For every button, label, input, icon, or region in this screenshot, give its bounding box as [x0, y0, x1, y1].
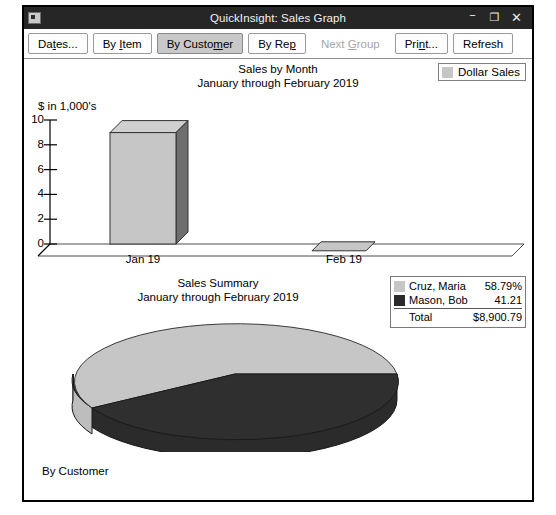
by-item-button-label: By Item	[103, 38, 142, 50]
dollar-sales-legend-label: Dollar Sales	[458, 66, 520, 78]
legend-name-cruz: Cruz, Maria	[409, 280, 481, 292]
pie-chart-footer-label: By Customer	[42, 465, 108, 477]
mason-bob-swatch-icon	[394, 295, 405, 306]
toolbar: Dates... By Item By Customer By Rep Next…	[24, 29, 532, 59]
refresh-button-label: Refresh	[463, 38, 503, 50]
bar-ytick-8: 8	[24, 138, 44, 150]
cruz-maria-swatch-icon	[394, 281, 405, 292]
legend-total-label: Total	[409, 311, 469, 323]
bar-ytick-4: 4	[24, 187, 44, 199]
next-group-button-label: Next Group	[321, 38, 380, 50]
legend-row: Cruz, Maria 58.79%	[394, 279, 522, 293]
pie-chart-graphic	[70, 312, 400, 452]
by-customer-button[interactable]: By Customer	[157, 33, 244, 54]
window-title: QuickInsight: Sales Graph	[24, 12, 532, 24]
print-button[interactable]: Print...	[395, 33, 448, 54]
dollar-sales-swatch-icon	[442, 67, 453, 78]
legend-total-value: $8,900.79	[473, 311, 522, 323]
by-rep-button-label: By Rep	[258, 38, 296, 50]
minimize-icon[interactable]: –	[466, 10, 479, 20]
by-item-button[interactable]: By Item	[93, 33, 152, 54]
legend-value-mason: 41.21	[494, 294, 522, 306]
bar-chart-svg	[24, 111, 532, 271]
legend-row-total: Total $8,900.79	[394, 308, 522, 324]
pie-chart-svg	[70, 312, 400, 452]
dates-button[interactable]: Dates...	[28, 33, 88, 54]
bar-ytick-10: 10	[24, 113, 44, 125]
app-window-icon	[28, 12, 41, 24]
bar-ytick-0: 0	[24, 237, 44, 249]
bar-xtick-feb: Feb 19	[309, 253, 379, 265]
by-customer-button-label: By Customer	[167, 38, 234, 50]
legend-value-cruz: 58.79%	[485, 280, 522, 292]
pie-chart-panel: Sales Summary January through February 2…	[24, 274, 532, 500]
print-button-label: Print...	[405, 38, 438, 50]
close-icon[interactable]: ✕	[510, 13, 523, 23]
application-window: QuickInsight: Sales Graph – ❐ ✕ Dates...…	[22, 5, 534, 502]
bar-chart-plot: 10 8 6 4 2 0 Jan 19 Feb 19	[24, 111, 532, 271]
bar-ytick-2: 2	[24, 212, 44, 224]
legend-row: Mason, Bob 41.21	[394, 293, 522, 307]
legend-name-mason: Mason, Bob	[409, 294, 490, 306]
refresh-button[interactable]: Refresh	[453, 33, 513, 54]
sales-summary-legend: Cruz, Maria 58.79% Mason, Bob 41.21 Tota…	[390, 276, 526, 328]
window-controls: – ❐ ✕	[466, 13, 532, 23]
bar-xtick-jan: Jan 19	[108, 253, 178, 265]
maximize-icon[interactable]: ❐	[488, 13, 501, 23]
bar-chart-panel: Sales by Month January through February …	[24, 59, 532, 274]
title-bar[interactable]: QuickInsight: Sales Graph – ❐ ✕	[24, 7, 532, 29]
dates-button-label: Dates...	[38, 38, 78, 50]
by-rep-button[interactable]: By Rep	[248, 33, 306, 54]
bar-ytick-6: 6	[24, 163, 44, 175]
dollar-sales-legend: Dollar Sales	[438, 63, 526, 81]
client-area: Sales by Month January through February …	[24, 59, 532, 500]
next-group-button: Next Group	[311, 33, 390, 54]
